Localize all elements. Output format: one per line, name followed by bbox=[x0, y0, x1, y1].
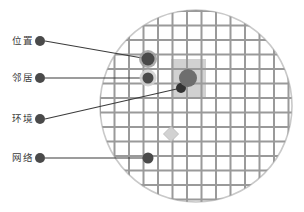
center-node[interactable] bbox=[179, 69, 197, 87]
legend-marker-environment[interactable] bbox=[35, 114, 45, 124]
legend-label-neighbor: 邻居 bbox=[12, 72, 34, 83]
legend-label-position: 位置 bbox=[12, 35, 34, 46]
position-node[interactable] bbox=[142, 53, 155, 66]
legend-marker-position[interactable] bbox=[35, 36, 45, 46]
legend-marker-neighbor[interactable] bbox=[35, 73, 45, 83]
legend-marker-network[interactable] bbox=[35, 153, 45, 163]
network-node[interactable] bbox=[143, 153, 154, 164]
legend-label-network: 网络 bbox=[12, 152, 34, 163]
legend-label-environment: 环境 bbox=[12, 113, 34, 124]
diagram-canvas: 位置邻居环境网络 bbox=[0, 0, 304, 212]
neighbor-node[interactable] bbox=[143, 73, 154, 84]
